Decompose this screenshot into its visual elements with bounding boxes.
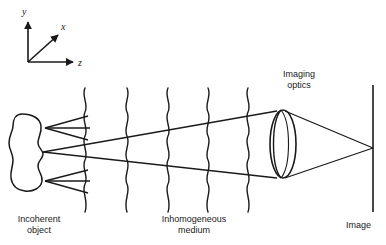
object-blob-outline — [9, 114, 43, 191]
label-image: Image — [346, 220, 386, 231]
optical-imaging-diagram: y x z — [0, 0, 386, 245]
label-imaging-optics: Imaging optics — [264, 69, 334, 91]
label-inhomogeneous-medium: Inhomogeneous medium — [131, 214, 257, 236]
y-axis-label: y — [21, 6, 27, 17]
label-incoherent-object: Incoherent object — [0, 214, 78, 236]
x-axis-label: x — [60, 21, 66, 32]
incoherent-object — [9, 114, 43, 191]
diagram-background — [0, 0, 386, 245]
z-axis-label: z — [77, 57, 82, 68]
